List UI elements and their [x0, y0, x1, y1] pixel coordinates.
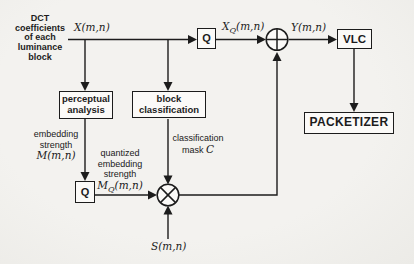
signal-label-xq: XQ(m,n): [222, 20, 264, 32]
vlc-block: VLC: [337, 29, 372, 49]
arrowhead-into-multiplier-left: [148, 191, 157, 200]
quantized-embedding-strength-label: quantized embedding strength MQ(m,n): [88, 148, 152, 190]
classification-mask-label: classification mask C: [166, 133, 230, 155]
arrowhead-into-vlc: [328, 35, 337, 44]
input-description-label: DCT coefficients of each luminance block: [5, 14, 75, 63]
perceptual-analysis-block: perceptual analysis: [59, 91, 113, 119]
signal-label-y: Y(m,n): [291, 21, 326, 33]
signal-label-x: X(m,n): [74, 21, 110, 33]
adder-node: [266, 29, 288, 51]
arrowhead-into-adder-left: [257, 35, 266, 44]
arrowhead-into-classification: [164, 82, 173, 91]
block-classification-block: block classification: [132, 91, 206, 118]
arrowhead-into-multiplier-top: [164, 176, 173, 185]
arrowhead-into-adder-bottom: [273, 52, 282, 61]
packetizer-block: PACKETIZER: [304, 112, 394, 134]
arrowhead-into-multiplier-bottom: [164, 206, 173, 215]
wire-multiplier-to-adder: [179, 60, 277, 195]
signal-label-mq: MQ(m,n): [88, 180, 152, 191]
embedding-strength-label: embedding strength M(m,n): [24, 129, 88, 161]
arrowhead-into-packetizer: [350, 103, 359, 112]
signal-label-s: S(m,n): [151, 240, 186, 252]
quantizer-top-block: Q: [197, 28, 216, 49]
arrowhead-into-quantizer-top: [188, 35, 197, 44]
watermark-embedder-diagram: DCT coefficients of each luminance block…: [0, 0, 414, 264]
multiplier-node: [157, 184, 179, 206]
arrowhead-into-perceptual: [81, 82, 90, 91]
signal-label-c: C: [206, 143, 214, 155]
signal-label-m: M(m,n): [24, 150, 88, 161]
